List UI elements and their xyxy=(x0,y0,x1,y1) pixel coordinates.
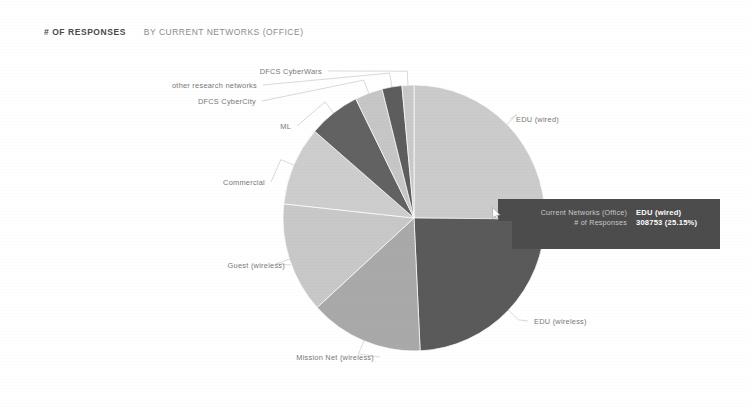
slice-label: Commercial xyxy=(0,179,265,186)
tooltip-body: Current Networks (Office) EDU (wired) # … xyxy=(512,199,720,249)
slice-label: DFCS CyberWars xyxy=(0,68,322,75)
slice-label: Guest (wireless) xyxy=(0,262,285,269)
slice-label: EDU (wired) xyxy=(516,116,559,123)
leader-line xyxy=(508,310,528,321)
chart-tooltip: Current Networks (Office) EDU (wired) # … xyxy=(512,199,720,249)
slice-label: EDU (wireless) xyxy=(534,318,587,325)
tooltip-row-dimension: Current Networks (Office) EDU (wired) xyxy=(512,208,710,218)
slice-label: Mission Net (wireless) xyxy=(0,354,374,361)
slice-label: other research networks xyxy=(0,82,257,89)
mouse-cursor-icon xyxy=(492,207,501,220)
tooltip-metric-value: 308753 (25.15%) xyxy=(636,218,710,228)
leader-line xyxy=(328,71,408,85)
tooltip-dimension-key: Current Networks (Office) xyxy=(541,208,627,218)
slice-label: ML xyxy=(0,123,291,130)
leader-line xyxy=(262,80,369,101)
slice-label: DFCS CyberCity xyxy=(0,98,256,105)
tooltip-row-metric: # of Responses 308753 (25.15%) xyxy=(512,218,710,228)
tooltip-dimension-value: EDU (wired) xyxy=(636,208,710,218)
tooltip-metric-key: # of Responses xyxy=(574,218,627,228)
